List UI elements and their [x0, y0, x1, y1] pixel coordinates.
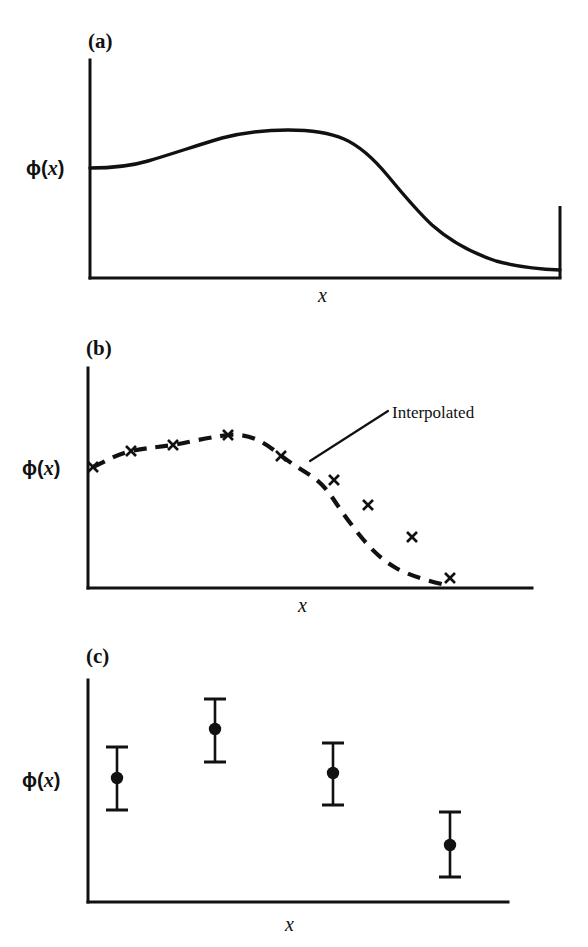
panel-c-datapoint-dot: [209, 723, 221, 735]
panel-b-xlabel: x: [297, 594, 307, 615]
panel-c-datapoint-dot: [111, 772, 123, 784]
panel-a: (a) ϕ(x) x: [0, 0, 588, 310]
panel-c-errorbar-point-4: [439, 812, 461, 877]
panel-a-plot: (a) ϕ(x) x: [0, 0, 588, 310]
panel-c-ylabel-var: x: [43, 769, 54, 791]
panel-a-ylabel-close: ): [58, 157, 65, 179]
panel-a-ylabel-phi: ϕ(: [26, 157, 48, 179]
panel-c-plot: (c) ϕ(x): [0, 615, 588, 947]
panel-b-ylabel-close: ): [54, 457, 61, 479]
panel-c-ylabel-close: ): [54, 769, 61, 791]
panel-a-curve: [90, 130, 560, 270]
panel-c-errorbar-point-2: [204, 699, 226, 762]
panel-c-xlabel: x: [284, 913, 294, 935]
panel-c-ylabel: ϕ(x): [22, 769, 60, 791]
panel-b-plot: (b) ϕ(x): [0, 310, 588, 615]
panel-c-errorbar-point-1: [106, 747, 128, 810]
panel-a-tag: (a): [88, 29, 113, 53]
panel-b-cross-markers: [88, 430, 455, 583]
panel-c-datapoint-dot: [444, 839, 456, 851]
panel-b-annotation-leader: [310, 411, 388, 461]
panel-a-xlabel: x: [317, 284, 327, 306]
panel-b: (b) ϕ(x): [0, 310, 588, 615]
figure-root: (a) ϕ(x) x (b) ϕ(x): [0, 0, 588, 947]
panel-a-ylabel: ϕ(x): [26, 157, 64, 179]
panel-c-errorbar-point-3: [322, 743, 344, 805]
panel-a-ylabel-var: x: [47, 157, 58, 179]
panel-b-annotation-label: Interpolated: [392, 403, 475, 422]
panel-c-datapoint-dot: [327, 767, 339, 779]
panel-b-ylabel: ϕ(x): [22, 457, 60, 479]
panel-b-tag: (b): [86, 336, 112, 360]
panel-c-ylabel-phi: ϕ(: [22, 769, 44, 791]
panel-c: (c) ϕ(x): [0, 615, 588, 947]
panel-b-ylabel-var: x: [43, 457, 54, 479]
panel-b-curve: [93, 435, 450, 586]
panel-b-ylabel-phi: ϕ(: [22, 457, 44, 479]
panel-c-tag: (c): [86, 644, 109, 668]
